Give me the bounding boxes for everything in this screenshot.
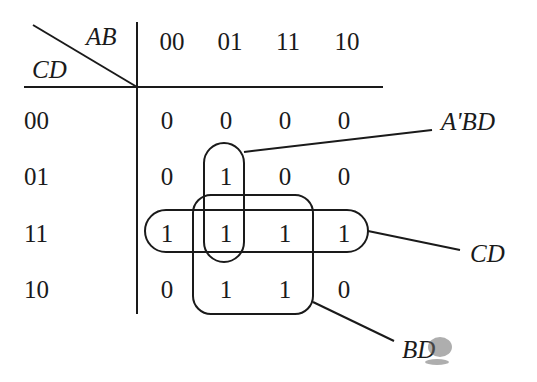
cell-value: 0 bbox=[338, 276, 351, 303]
cell-value: 0 bbox=[161, 107, 174, 134]
cell-value: 0 bbox=[338, 107, 351, 134]
column-header: 11 bbox=[276, 28, 300, 55]
cell-value: 0 bbox=[279, 163, 292, 190]
cell-value: 1 bbox=[220, 163, 233, 190]
column-header: 00 bbox=[160, 28, 185, 55]
group-loop-b-d bbox=[193, 195, 313, 314]
row-variables-label: CD bbox=[32, 56, 67, 83]
ink-smudge bbox=[428, 337, 452, 357]
group-label-c-d: CD bbox=[470, 240, 505, 267]
row-header: 01 bbox=[24, 163, 49, 190]
cell-value: 1 bbox=[161, 220, 174, 247]
row-header: 11 bbox=[24, 220, 48, 247]
cell-value: 1 bbox=[279, 220, 292, 247]
leader-line-c-d bbox=[368, 231, 460, 250]
row-header: 00 bbox=[24, 107, 49, 134]
cell-value: 1 bbox=[338, 220, 351, 247]
group-label-a-prime-b-d: A'BD bbox=[439, 108, 495, 135]
row-header: 10 bbox=[24, 276, 49, 303]
column-variables-label: AB bbox=[84, 23, 117, 50]
column-header: 01 bbox=[218, 28, 243, 55]
cell-value: 0 bbox=[161, 276, 174, 303]
cell-value: 0 bbox=[220, 107, 233, 134]
ink-smudge bbox=[425, 359, 449, 365]
cell-value: 0 bbox=[279, 107, 292, 134]
cell-value: 0 bbox=[161, 163, 174, 190]
leader-line-b-d bbox=[313, 302, 394, 341]
karnaugh-map: AB CD 00 01 11 10 00 01 11 10 0 0 0 0 0 … bbox=[0, 0, 537, 382]
cell-value: 1 bbox=[220, 220, 233, 247]
group-loop-c-d bbox=[145, 210, 368, 252]
cell-value: 1 bbox=[220, 276, 233, 303]
cell-value: 0 bbox=[338, 163, 351, 190]
cell-value: 1 bbox=[279, 276, 292, 303]
column-header: 10 bbox=[335, 28, 360, 55]
